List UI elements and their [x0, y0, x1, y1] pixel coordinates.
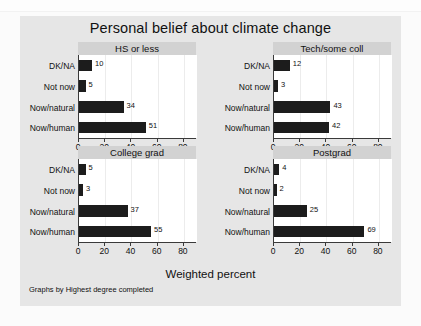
bar-row: 43: [274, 97, 392, 118]
bar-value-label: 25: [310, 205, 318, 214]
bar-row: 4: [274, 159, 392, 180]
bar: [274, 205, 307, 217]
bar-row: 12: [274, 55, 392, 76]
panel-postgrad: Postgrad422569DK/NANot nowNow/naturalNow…: [215, 146, 391, 242]
x-axis-tick-label: 0: [68, 246, 88, 256]
chart-title: Personal belief about climate change: [20, 20, 401, 36]
x-axis-tick-label: 40: [120, 246, 140, 256]
bar: [79, 122, 146, 134]
x-axis-tick-label: 80: [173, 246, 193, 256]
footnote: Graphs by Highest degree completed: [29, 285, 153, 294]
bar: [274, 122, 329, 134]
y-axis-category-label: DK/NA: [0, 165, 75, 175]
y-axis-category-label: Now/human: [150, 123, 270, 133]
y-axis-category-label: DK/NA: [150, 61, 270, 71]
chart-frame: Personal belief about climate change HS …: [20, 16, 401, 306]
bar: [274, 101, 330, 113]
bar-value-label: 3: [86, 184, 90, 193]
y-axis-category-label: Not now: [0, 82, 75, 92]
panel-header-label: HS or less: [78, 42, 196, 55]
x-axis-tick-label: 20: [94, 246, 114, 256]
bar-value-label: 69: [367, 225, 375, 234]
bar-value-label: 34: [127, 101, 135, 110]
bar-value-label: 3: [281, 80, 285, 89]
y-axis-category-label: Now/natural: [0, 207, 75, 217]
top-edge-artifact: [0, 0, 421, 12]
bar: [79, 101, 124, 113]
bar: [79, 80, 86, 92]
bar-value-label: 37: [131, 205, 139, 214]
bar-value-label: 12: [293, 59, 301, 68]
bar-value-label: 42: [332, 121, 340, 130]
y-axis-category-label: Not now: [150, 186, 270, 196]
y-axis-category-label: Now/human: [0, 123, 75, 133]
y-axis-category-label: Now/human: [150, 227, 270, 237]
y-axis-category-label: Now/natural: [150, 207, 270, 217]
plot-area: 1234342: [273, 55, 392, 138]
y-axis-category-label: Not now: [0, 186, 75, 196]
panel-tech-some-coll: Tech/some coll1234342DK/NANot nowNow/nat…: [215, 42, 391, 138]
x-axis-line: [273, 138, 391, 139]
x-axis-title: Weighted percent: [20, 268, 401, 280]
bar: [274, 80, 278, 92]
bar: [274, 184, 277, 196]
x-axis-tick-label: 60: [342, 246, 362, 256]
bar: [274, 164, 279, 176]
x-axis-line: [273, 242, 391, 243]
chart-page: Personal belief about climate change HS …: [0, 0, 421, 326]
bar: [79, 164, 86, 176]
panel-header-label: Postgrad: [273, 146, 391, 159]
x-axis-tick-label: 60: [147, 246, 167, 256]
bar-row: 3: [274, 76, 392, 97]
bar: [274, 60, 290, 72]
x-axis-tick-label: 80: [368, 246, 388, 256]
bar-row: 25: [274, 201, 392, 222]
y-axis-category-label: Now/natural: [150, 103, 270, 113]
y-axis-category-label: DK/NA: [0, 61, 75, 71]
bar-value-label: 4: [282, 163, 286, 172]
x-axis-tick-label: 20: [289, 246, 309, 256]
bar: [79, 60, 92, 72]
y-axis-category-label: Now/human: [0, 227, 75, 237]
bar-value-label: 5: [89, 163, 93, 172]
y-axis-category-label: Not now: [150, 82, 270, 92]
bar-value-label: 43: [333, 101, 341, 110]
x-axis-line: [78, 138, 196, 139]
bar: [274, 226, 364, 238]
bar-row: 42: [274, 117, 392, 138]
bar-row: 2: [274, 180, 392, 201]
bar: [79, 226, 151, 238]
bar-value-label: 5: [89, 80, 93, 89]
y-axis-category-label: Now/natural: [0, 103, 75, 113]
bar: [79, 205, 128, 217]
panel-header-label: Tech/some coll: [273, 42, 391, 55]
x-axis-line: [78, 242, 196, 243]
bar-row: 69: [274, 221, 392, 242]
y-axis-category-label: DK/NA: [150, 165, 270, 175]
bar: [79, 184, 83, 196]
bar-value-label: 10: [95, 59, 103, 68]
panel-header-label: College grad: [78, 146, 196, 159]
x-axis-tick-label: 0: [263, 246, 283, 256]
x-axis-tick-label: 40: [315, 246, 335, 256]
bar-value-label: 2: [280, 184, 284, 193]
plot-area: 422569: [273, 159, 392, 242]
